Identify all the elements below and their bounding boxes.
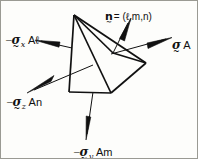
label-normal-vector: n~= (ℓ,m,n): [105, 7, 152, 23]
label-sigma-A-symbol: σ~: [172, 39, 181, 51]
edge-apex-to-bottom-left: [69, 15, 74, 92]
arrow-sigma-y-Am: [86, 92, 93, 140]
under-tilde-x-icon: ~: [13, 43, 20, 51]
under-tilde-A-icon: ~: [173, 48, 180, 56]
under-tilde-n-icon: ~: [106, 19, 112, 26]
arrow-sigma-A-head: [147, 38, 172, 49]
edge-bottom-front-to-right-vertex: [111, 63, 146, 93]
normal-vector-components: = (ℓ,m,n): [113, 11, 152, 22]
label-sigma-z-An: –σ~zAn: [7, 93, 42, 111]
edge-right-vertex-to-inclined-face: [113, 53, 146, 63]
arrow-sigma-z-head: [27, 76, 54, 94]
arrow-sigma-y-head: [86, 116, 91, 140]
under-tilde-z-icon: ~: [14, 105, 21, 113]
arrow-sigma-z-An: [27, 65, 93, 93]
label-sigma-y-symbol: σ~: [80, 146, 89, 158]
label-sigma-A-suffix: A: [181, 39, 191, 51]
label-sigma-y-Am: –σ~yAm: [74, 143, 112, 159]
label-sigma-x-Al: –σ~xAℓ: [6, 31, 39, 49]
label-sigma-z-suffix: An: [26, 96, 42, 108]
label-sigma-y-suffix: Am: [93, 146, 112, 158]
under-tilde-y-icon: ~: [81, 155, 88, 159]
tetrahedron-diagram-svg: [1, 1, 198, 159]
arrow-sigma-x-Al: [35, 40, 72, 48]
label-sigma-z-symbol: σ~: [13, 96, 22, 108]
tetrahedron-body: [69, 15, 146, 93]
arrow-sigma-z-shaft: [34, 65, 93, 90]
label-sigma-x-symbol: σ~: [12, 34, 21, 46]
figure-container: –σ~xAℓ –σ~zAn –σ~yAm σ~A n~= (ℓ,m,n): [0, 0, 198, 159]
label-sigma-x-suffix: Aℓ: [25, 34, 38, 46]
traction-arrows: [27, 18, 172, 140]
normal-vector-symbol: n~: [105, 11, 113, 22]
label-sigma-A: σ~A: [172, 36, 191, 52]
edge-bottom-left-to-bottom-front: [69, 92, 111, 93]
